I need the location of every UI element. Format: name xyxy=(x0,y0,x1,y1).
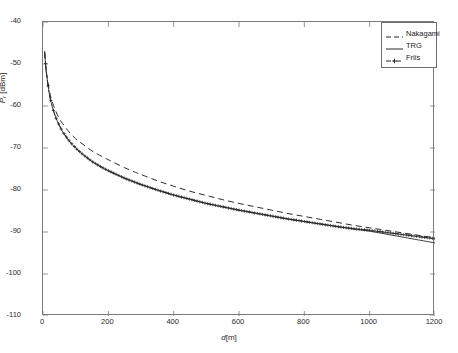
data-marker xyxy=(222,205,225,208)
y-axis-tick-label: -100 xyxy=(0,269,21,277)
x-axis-tick-label: 1200 xyxy=(414,318,454,326)
data-marker xyxy=(274,215,277,218)
data-marker xyxy=(240,209,243,212)
data-marker xyxy=(287,217,290,220)
data-marker xyxy=(261,213,264,216)
y-axis-tick-label: -40 xyxy=(0,17,21,25)
plot-canvas xyxy=(43,22,435,316)
data-marker xyxy=(282,217,285,220)
data-marker xyxy=(243,210,246,213)
data-marker xyxy=(216,204,219,207)
data-marker xyxy=(316,222,319,225)
y-axis-tick-label: -110 xyxy=(0,311,21,319)
data-marker xyxy=(190,198,193,201)
legend-line-sample xyxy=(385,40,404,50)
data-marker xyxy=(44,62,47,65)
data-marker xyxy=(52,109,55,112)
data-marker xyxy=(185,197,188,200)
legend: NakagamiTRGFriis xyxy=(381,22,437,68)
data-marker xyxy=(284,217,287,220)
data-marker xyxy=(308,221,311,224)
legend-item-friis[interactable]: Friis xyxy=(385,51,434,63)
data-marker xyxy=(258,212,261,215)
data-marker xyxy=(329,224,332,227)
data-marker xyxy=(209,203,212,206)
data-marker xyxy=(277,216,280,219)
data-marker xyxy=(245,210,248,213)
data-marker xyxy=(177,195,180,198)
legend-label: Friis xyxy=(406,53,420,62)
x-axis-tick-label: 200 xyxy=(87,318,127,326)
data-marker xyxy=(49,99,52,102)
data-marker xyxy=(237,209,240,212)
data-marker xyxy=(256,212,259,215)
data-marker xyxy=(54,117,57,120)
data-marker xyxy=(232,207,235,210)
legend-label: Nakagami xyxy=(406,29,440,38)
data-marker xyxy=(227,206,230,209)
y-axis-label-symbol: P xyxy=(0,98,7,103)
data-marker xyxy=(248,210,251,213)
x-axis-label-unit: [m] xyxy=(226,333,237,342)
data-marker xyxy=(313,222,316,225)
y-axis-tick-label: -70 xyxy=(0,143,21,151)
data-marker xyxy=(290,218,293,221)
data-marker xyxy=(298,219,301,222)
data-marker xyxy=(201,201,204,204)
y-axis-label: Pr [dBm] xyxy=(0,48,7,128)
x-axis-tick-label: 800 xyxy=(283,318,323,326)
data-marker xyxy=(305,220,308,223)
x-axis-label: d[m] xyxy=(0,333,458,342)
data-marker xyxy=(321,223,324,226)
legend-item-trg[interactable]: TRG xyxy=(385,39,434,51)
data-marker xyxy=(198,200,201,203)
data-marker xyxy=(219,205,222,208)
data-marker xyxy=(279,216,282,219)
data-marker xyxy=(188,197,191,200)
series-line-trg xyxy=(45,51,435,243)
x-axis-tick-label: 1000 xyxy=(349,318,389,326)
y-axis-tick-label: -90 xyxy=(0,227,21,235)
data-marker xyxy=(266,214,269,217)
data-marker xyxy=(311,221,314,224)
data-marker xyxy=(47,84,50,87)
series-line-friis xyxy=(45,51,435,238)
figure: -40-50-60-70-80-90-100-110 0200400600800… xyxy=(0,0,458,353)
data-marker xyxy=(264,213,267,216)
y-axis-tick-label: -80 xyxy=(0,185,21,193)
legend-item-nakagami[interactable]: Nakagami xyxy=(385,27,434,39)
y-axis-label-unit: [dBm] xyxy=(0,73,7,94)
data-marker xyxy=(203,202,206,205)
plot-area xyxy=(42,21,434,315)
x-axis-tick-label: 600 xyxy=(218,318,258,326)
data-marker xyxy=(206,202,209,205)
data-marker xyxy=(183,196,186,199)
series-markers-friis xyxy=(44,62,435,240)
data-marker xyxy=(269,214,272,217)
data-marker xyxy=(224,206,227,209)
legend-label: TRG xyxy=(406,41,422,50)
data-marker xyxy=(230,207,233,210)
data-marker xyxy=(433,237,435,240)
data-marker xyxy=(235,208,238,211)
data-marker xyxy=(250,211,253,214)
data-marker xyxy=(253,211,256,214)
x-axis-tick-label: 0 xyxy=(22,318,62,326)
data-marker xyxy=(175,194,178,197)
data-marker xyxy=(196,199,199,202)
legend-line-sample xyxy=(385,52,404,62)
data-marker xyxy=(214,204,217,207)
data-marker xyxy=(193,199,196,202)
data-marker xyxy=(271,215,274,218)
y-axis-label-subscript: r xyxy=(1,96,7,98)
data-marker xyxy=(211,203,214,206)
legend-line-sample xyxy=(385,28,404,38)
data-marker xyxy=(180,195,183,198)
x-axis-tick-label: 400 xyxy=(153,318,193,326)
